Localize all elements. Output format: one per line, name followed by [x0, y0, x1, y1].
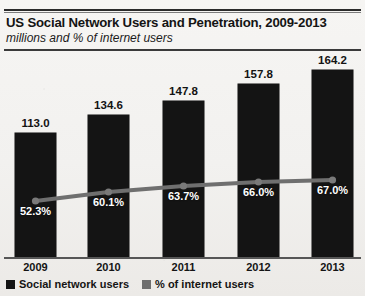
x-axis-tick-2010: 2010	[83, 261, 134, 273]
pct-label-2009: 52.3%	[9, 205, 62, 217]
legend-item-social-network-users: Social network users	[6, 278, 129, 290]
square-swatch-icon	[142, 280, 151, 289]
pct-label-2013: 67.0%	[306, 184, 359, 196]
chart-plot-area: 113.0 134.6 147.8 157.8 164.2 52.3% 60.1…	[0, 0, 365, 296]
pct-label-2010: 60.1%	[82, 196, 135, 208]
chart-legend: Social network users % of internet users	[6, 278, 254, 290]
legend-item-pct-internet-users: % of internet users	[142, 278, 254, 290]
x-axis-tick-2013: 2013	[307, 261, 358, 273]
legend-label-pct-internet-users: % of internet users	[155, 278, 254, 290]
x-axis-line	[4, 257, 361, 259]
x-axis-tick-2011: 2011	[158, 261, 209, 273]
x-axis-tick-2012: 2012	[233, 261, 284, 273]
x-axis-tick-2009: 2009	[10, 261, 61, 273]
pct-label-2011: 63.7%	[157, 190, 210, 202]
square-swatch-icon	[6, 280, 15, 289]
legend-label-social-network-users: Social network users	[19, 278, 129, 290]
penetration-line-series	[0, 0, 365, 296]
pct-label-2012: 66.0%	[232, 186, 285, 198]
